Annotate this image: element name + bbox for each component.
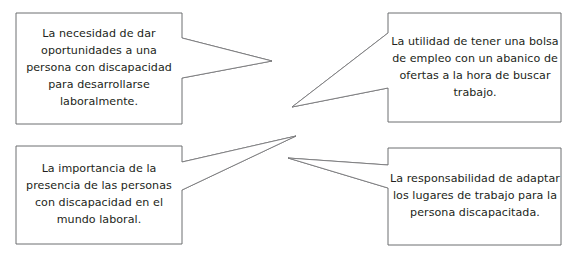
callout-shapes-group (0, 0, 577, 265)
callout-top-left-shape[interactable] (16, 13, 272, 124)
callout-bottom-left-shape[interactable] (16, 136, 296, 244)
callout-bottom-right-shape[interactable] (288, 148, 561, 245)
diagram-canvas: La necesidad de dar oportunidades a una … (0, 0, 577, 265)
callout-top-right-shape[interactable] (292, 13, 561, 122)
